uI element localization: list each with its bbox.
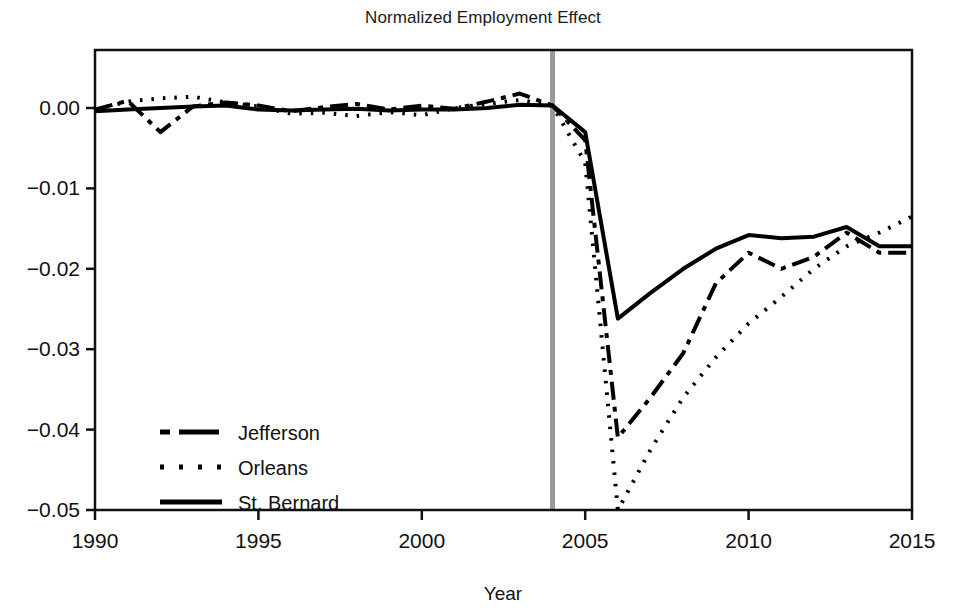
- series-line-st-bernard: [95, 105, 912, 319]
- legend-label-st-bernard: St. Bernard: [238, 492, 339, 514]
- y-tick-label: −0.04: [27, 418, 80, 441]
- x-axis-title: Year: [484, 583, 523, 604]
- y-tick-label: −0.02: [27, 257, 80, 280]
- x-tick-label: 1995: [235, 529, 282, 552]
- y-tick-label: −0.01: [27, 176, 80, 199]
- legend-label-orleans: Orleans: [238, 457, 308, 479]
- y-axis-ticks: 0.00−0.01−0.02−0.03−0.04−0.05: [27, 96, 95, 521]
- x-axis-ticks: 199019952000200520102015: [72, 510, 936, 552]
- y-tick-label: −0.05: [27, 498, 80, 521]
- series-layer: [95, 94, 912, 510]
- x-tick-label: 2005: [562, 529, 609, 552]
- series-line-orleans: [95, 97, 912, 510]
- x-tick-label: 1990: [72, 529, 119, 552]
- x-tick-label: 2000: [398, 529, 445, 552]
- x-tick-label: 2015: [889, 529, 936, 552]
- legend-layer: JeffersonOrleansSt. Bernard: [160, 422, 339, 514]
- series-line-jefferson: [95, 94, 912, 438]
- y-tick-label: 0.00: [39, 96, 80, 119]
- x-tick-label: 2010: [725, 529, 772, 552]
- chart-figure: Normalized Employment Effect 0.00−0.01−0…: [0, 0, 966, 616]
- legend-label-jefferson: Jefferson: [238, 422, 320, 444]
- plot-frame: [95, 50, 912, 510]
- y-tick-label: −0.03: [27, 337, 80, 360]
- chart-plot: 0.00−0.01−0.02−0.03−0.04−0.05 1990199520…: [0, 0, 966, 616]
